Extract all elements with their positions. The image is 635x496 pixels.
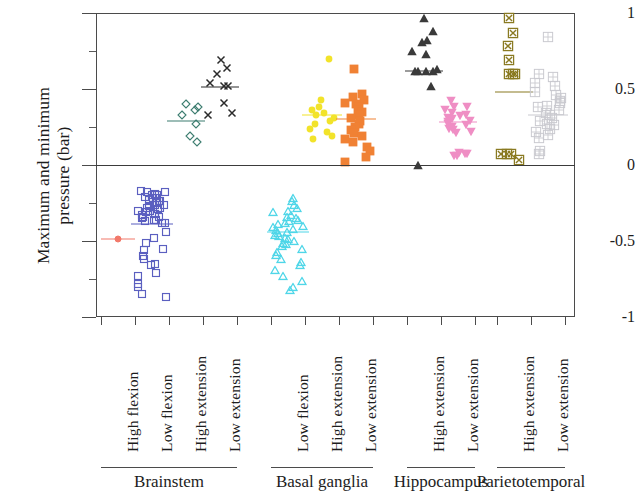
x-tick-mark xyxy=(169,317,170,325)
x-tick-mark xyxy=(531,317,532,325)
mean-line xyxy=(201,87,239,88)
x-tick-mark xyxy=(203,317,204,325)
y-minor-tick xyxy=(89,127,96,128)
x-tick-mark xyxy=(475,317,476,325)
x-tick-label: High extension xyxy=(520,356,538,452)
x-tick-label: Low extension xyxy=(464,358,482,452)
x-tick-label: Low extension xyxy=(362,358,380,452)
mean-line xyxy=(302,114,342,115)
mean-line xyxy=(528,114,568,115)
group-label: Hippocampus xyxy=(394,472,488,492)
x-tick-mark xyxy=(339,317,340,325)
x-tick-label: High extension xyxy=(430,356,448,452)
mean-line xyxy=(167,120,205,121)
x-tick-mark xyxy=(497,317,498,325)
y-minor-tick xyxy=(89,279,96,280)
group-label: Basal ganglia xyxy=(276,472,368,492)
group-underline xyxy=(101,467,237,468)
group-label: Brainstem xyxy=(134,472,204,492)
x-tick-mark xyxy=(271,317,272,325)
mean-line xyxy=(101,239,135,240)
mean-line xyxy=(267,231,309,232)
y-minor-tick xyxy=(89,203,96,204)
mean-line xyxy=(439,122,477,123)
mean-line xyxy=(131,224,173,225)
chart-canvas: Maximum and minimum pressure (bar) 10.50… xyxy=(0,0,635,496)
x-tick-label: Low extension xyxy=(226,358,244,452)
x-tick-mark xyxy=(135,317,136,325)
y-tick-mark xyxy=(82,13,96,14)
mean-line xyxy=(495,92,533,93)
x-tick-label: Low flexion xyxy=(158,374,176,452)
x-tick-mark xyxy=(441,317,442,325)
mean-line xyxy=(405,70,443,71)
x-tick-label: High extension xyxy=(328,356,346,452)
y-tick-mark xyxy=(82,89,96,90)
y-tick-mark xyxy=(82,165,96,166)
x-tick-mark xyxy=(373,317,374,325)
x-tick-mark xyxy=(101,317,102,325)
y-axis-title: Maximum and minimum pressure (bar) xyxy=(34,26,73,326)
y-minor-tick xyxy=(89,51,96,52)
zero-line xyxy=(96,165,575,166)
y-tick-mark xyxy=(82,241,96,242)
group-label: Parietotemporal xyxy=(477,472,586,492)
mean-line xyxy=(336,119,376,120)
group-underline xyxy=(407,467,475,468)
x-tick-label: High flexion xyxy=(124,372,142,452)
group-underline xyxy=(497,467,565,468)
y-tick-mark xyxy=(82,317,96,318)
x-tick-label: Low extension xyxy=(554,358,572,452)
x-tick-mark xyxy=(305,317,306,325)
x-tick-label: High extension xyxy=(192,356,210,452)
x-tick-mark xyxy=(237,317,238,325)
x-tick-label: Low flexion xyxy=(294,374,312,452)
x-tick-mark xyxy=(407,317,408,325)
group-underline xyxy=(271,467,373,468)
x-tick-mark xyxy=(565,317,566,325)
